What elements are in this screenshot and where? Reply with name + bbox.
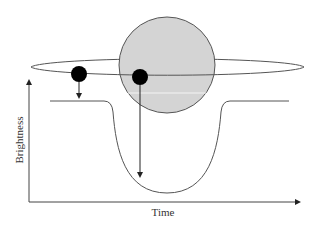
x-axis-label: Time xyxy=(152,206,175,218)
light-curve xyxy=(50,101,289,193)
star xyxy=(119,17,215,113)
planet-transiting xyxy=(132,69,148,85)
transit-diagram: Brightness Time xyxy=(0,0,317,228)
planet-outside-star xyxy=(71,66,87,82)
y-axis-label: Brightness xyxy=(13,116,25,163)
